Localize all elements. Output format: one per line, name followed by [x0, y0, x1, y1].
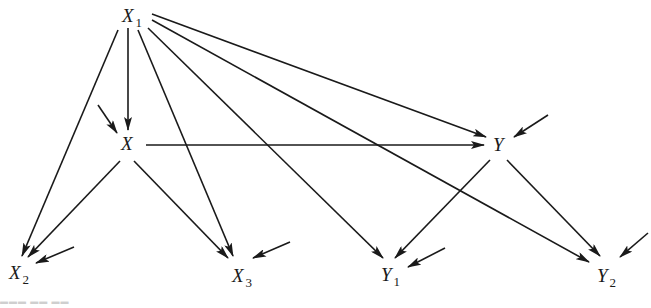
edge-x1-to-y2-arrow-icon: [152, 20, 589, 262]
error-term-y1-arrow-icon: [408, 248, 445, 267]
cropped-caption: ▬▬▬ ▬▬ ▬▬: [0, 297, 100, 308]
edge-y-to-y1-arrow-icon: [395, 160, 490, 258]
error-term-x-arrow-icon: [98, 105, 117, 133]
edge-x1-to-y-arrow-icon: [152, 14, 486, 137]
edges-group: [22, 14, 600, 262]
error-term-y-arrow-icon: [514, 115, 548, 137]
node-label: X: [121, 5, 135, 26]
node-subscript: 2: [610, 275, 617, 290]
node-x3: X3: [231, 265, 252, 290]
node-x: X: [120, 133, 134, 154]
error-term-x2-arrow-icon: [36, 247, 74, 263]
nodes-group: X1XYX2X3Y1Y2: [8, 5, 616, 290]
node-label: Y: [493, 134, 506, 155]
node-subscript: 1: [136, 15, 143, 30]
path-diagram: X1XYX2X3Y1Y2: [0, 0, 651, 308]
error-term-x3-arrow-icon: [253, 242, 290, 258]
node-subscript: 3: [246, 275, 253, 290]
node-label: X: [120, 133, 134, 154]
node-x2: X2: [8, 262, 29, 287]
edge-x1-to-x2-arrow-icon: [22, 30, 118, 256]
error-term-y2-arrow-icon: [620, 233, 648, 257]
node-y: Y: [493, 134, 506, 155]
node-label: X: [231, 265, 245, 286]
node-subscript: 2: [23, 272, 30, 287]
node-label: X: [8, 262, 22, 283]
node-x1: X1: [121, 5, 142, 30]
node-y2: Y2: [597, 265, 616, 290]
node-y1: Y1: [381, 264, 400, 289]
edge-x1-to-y1-arrow-icon: [148, 28, 383, 258]
node-subscript: 1: [394, 274, 401, 289]
node-label: Y: [381, 264, 394, 285]
node-label: Y: [597, 265, 610, 286]
